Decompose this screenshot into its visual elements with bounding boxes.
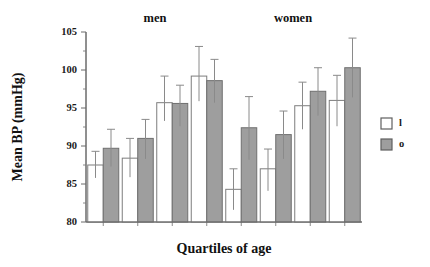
bar-chart-figure: 80859095100105menwomenQuartiles of ageMe… [0,0,430,267]
y-tick-label: 85 [67,178,78,189]
y-tick-label: 105 [61,26,77,37]
legend-swatch-o [381,139,392,150]
legend-label-o: o [399,138,404,149]
x-axis-title: Quartiles of age [177,241,272,256]
y-tick-label: 95 [67,102,78,113]
legend-label-l: l [399,117,402,128]
y-axis-title: Mean BP (mmHg) [10,72,26,181]
panel-title-men: men [144,11,167,25]
chart-canvas: 80859095100105menwomenQuartiles of ageMe… [0,0,430,267]
legend-swatch-l [381,118,392,129]
y-tick-label: 100 [61,64,77,75]
y-tick-label: 80 [67,216,78,227]
y-tick-label: 90 [67,140,78,151]
panel-title-women: women [274,11,312,25]
